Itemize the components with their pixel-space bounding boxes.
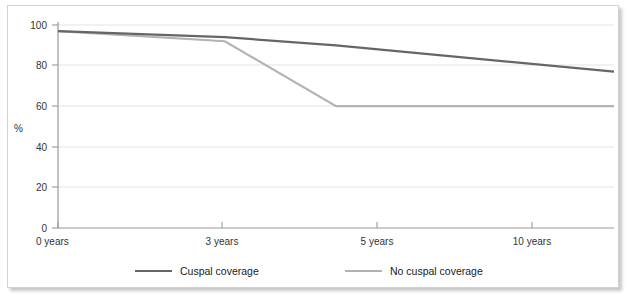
x-tick-label-10years: 10 years: [513, 236, 551, 247]
x-tick-label-3years: 3 years: [206, 236, 239, 247]
x-tick-marks: [58, 222, 532, 228]
x-tick-label-5years: 5 years: [361, 236, 394, 247]
y-tick-marks: [52, 25, 58, 228]
y-axis-title: %: [14, 123, 23, 134]
series-line-no-cuspal-coverage: [58, 31, 614, 106]
chart-screenshot: 100 80 60 40 20 0 % 0 years 3 years 5 ye…: [0, 0, 640, 301]
legend-label-no-cuspal-coverage: No cuspal coverage: [390, 265, 483, 277]
y-tick-label-100: 100: [30, 20, 47, 31]
y-tick-label-20: 20: [36, 182, 48, 193]
chart-legend: Cuspal coverage No cuspal coverage: [135, 265, 483, 277]
y-tick-label-40: 40: [36, 142, 48, 153]
legend-label-cuspal-coverage: Cuspal coverage: [180, 265, 259, 277]
line-chart: 100 80 60 40 20 0 % 0 years 3 years 5 ye…: [0, 0, 640, 301]
y-tick-label-60: 60: [36, 101, 48, 112]
y-tick-label-80: 80: [36, 60, 48, 71]
y-tick-label-0: 0: [41, 223, 47, 234]
x-tick-label-0years: 0 years: [36, 236, 69, 247]
series-group: [58, 31, 614, 106]
